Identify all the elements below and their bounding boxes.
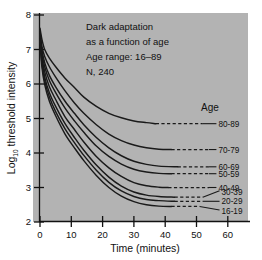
- legend-title: Age: [201, 102, 219, 113]
- x-tick-label-0: 0: [37, 229, 42, 240]
- y-tick-label-3: 3: [26, 182, 31, 193]
- legend-label-16-19: 16-19: [222, 207, 243, 216]
- x-tick-label-20: 20: [97, 229, 108, 240]
- legend-label-50-59: 50-59: [218, 170, 239, 179]
- dark-adaptation-line-chart: 2345678 0102030405060 80-8970-7960-6950-…: [0, 0, 262, 260]
- legend-label-30-39: 30-39: [222, 188, 243, 197]
- y-tick-label-4: 4: [26, 147, 31, 158]
- x-tick-label-50: 50: [191, 229, 202, 240]
- x-axis-title: Time (minutes): [110, 242, 180, 254]
- x-tick-label-30: 30: [129, 229, 140, 240]
- annotation-line-4: N, 240: [86, 66, 114, 77]
- y-axis-title: Log10 threshold intensity: [5, 61, 19, 174]
- y-tick-label-8: 8: [26, 9, 31, 20]
- y-axis-title-prefix: Log: [5, 156, 17, 174]
- x-tick-label-40: 40: [160, 229, 171, 240]
- annotation-line-3: Age range: 16–89: [86, 51, 162, 62]
- legend-label-20-29: 20-29: [222, 197, 243, 206]
- y-tick-label-6: 6: [26, 78, 31, 89]
- chart-figure: 2345678 0102030405060 80-8970-7960-6950-…: [0, 0, 262, 260]
- legend-label-70-79: 70-79: [218, 146, 239, 155]
- annotation-line-1: Dark adaptation: [86, 21, 153, 32]
- y-tick-label-5: 5: [26, 113, 31, 124]
- y-tick-label-2: 2: [26, 216, 31, 227]
- y-tick-label-7: 7: [26, 44, 31, 55]
- y-axis-title-suffix: threshold intensity: [5, 61, 17, 149]
- annotation-line-2: as a function of age: [86, 36, 169, 47]
- x-tick-label-10: 10: [66, 229, 77, 240]
- legend-label-80-89: 80-89: [218, 120, 239, 129]
- x-tick-label-60: 60: [223, 229, 234, 240]
